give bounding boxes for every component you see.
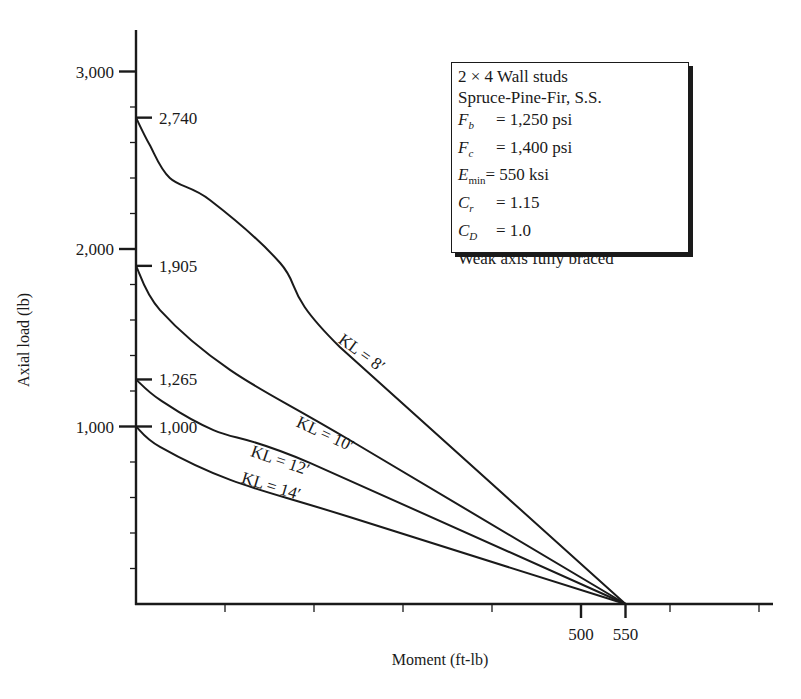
legend-title: 2 × 4 Wall studs [458,66,688,87]
legend-bracing: Weak axis fully braced [458,248,688,269]
x-axis-label: Moment (ft-lb) [392,651,488,669]
y-tick-label: 1,000 [76,418,114,437]
legend-cr: Cr= 1.15 [458,192,688,220]
legend-fc: Fc= 1,400 psi [458,137,688,165]
legend-emin-value: = 550 ksi [486,165,549,184]
y-axis-label: Axial load (lb) [15,293,33,387]
curve-kl-12 [136,379,626,604]
x-tick-label: 500 [568,625,594,644]
legend-cr-value: = 1.15 [496,193,540,212]
legend-species: Spruce-Pine-Fir, S.S. [458,87,688,108]
y-annotation-label: 1,265 [159,370,197,389]
curve-labels: KL = 8′KL = 10′KL = 12′KL = 14′ [239,330,388,504]
curve-label-kl-8: KL = 8′ [335,330,389,376]
legend-fb: Fb= 1,250 psi [458,109,688,137]
y-annotation-label: 1,905 [159,257,197,276]
y-tick-label: 3,000 [76,63,114,82]
y-annotation-label: 2,740 [159,109,197,128]
y-tick-label: 2,000 [76,240,114,259]
legend-fc-value: = 1,400 psi [496,138,572,157]
legend-fb-value: = 1,250 psi [496,110,572,129]
curve-kl-10 [136,266,626,604]
legend-cd-value: = 1.0 [496,221,531,240]
x-tick-label: 550 [613,625,639,644]
curve-label-kl-10: KL = 10′ [294,412,357,455]
legend-emin: Emin= 550 ksi [458,164,688,192]
legend-cd: CD= 1.0 [458,220,688,248]
legend-box: 2 × 4 Wall studs Spruce-Pine-Fir, S.S. F… [451,62,689,253]
curve-kl-14 [136,427,626,605]
